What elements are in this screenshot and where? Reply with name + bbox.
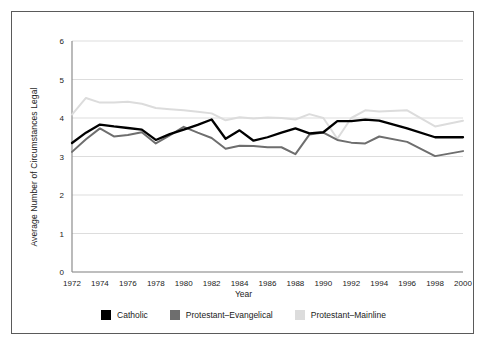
- y-tick-label-1: 1: [60, 230, 65, 239]
- legend-item-catholic[interactable]: Catholic: [101, 310, 148, 320]
- y-tick-label-4: 4: [60, 114, 65, 123]
- x-tick-label-1994: 1994: [370, 279, 388, 288]
- x-tick-label-1992: 1992: [342, 279, 360, 288]
- x-tick-label-1996: 1996: [398, 279, 416, 288]
- x-tick-label-1986: 1986: [259, 279, 277, 288]
- y-tick-label-5: 5: [60, 76, 65, 85]
- series-line-catholic: [72, 120, 463, 143]
- legend-swatch-catholic: [101, 310, 111, 320]
- y-tick-label-2: 2: [60, 191, 65, 200]
- legend-item-protestant-evangelical[interactable]: Protestant–Evangelical: [170, 310, 273, 320]
- x-axis-title: Year: [12, 289, 475, 299]
- legend-swatch-protestant-mainline: [295, 310, 305, 320]
- y-axis-title: Average Number of Circumstances Legal: [29, 52, 39, 282]
- y-tick-label-6: 6: [60, 37, 65, 46]
- x-tick-label-1978: 1978: [147, 279, 165, 288]
- x-tick-label-1980: 1980: [175, 279, 193, 288]
- chart-legend: Catholic Protestant–Evangelical Protesta…: [12, 310, 475, 320]
- x-tick-label-2000: 2000: [454, 279, 472, 288]
- chart-plot-area: Average Number of Circumstances Legal 01…: [12, 12, 475, 335]
- legend-item-protestant-mainline[interactable]: Protestant–Mainline: [295, 310, 386, 320]
- y-tick-label-0: 0: [60, 268, 65, 277]
- x-tick-label-1998: 1998: [426, 279, 444, 288]
- x-tick-label-1976: 1976: [119, 279, 137, 288]
- legend-swatch-protestant-evangelical: [170, 310, 180, 320]
- series-line-protestant-evangelical: [72, 127, 463, 156]
- x-tick-label-1984: 1984: [231, 279, 249, 288]
- legend-label-protestant-evangelical: Protestant–Evangelical: [186, 310, 273, 320]
- x-tick-label-1972: 1972: [63, 279, 81, 288]
- x-tick-label-1988: 1988: [287, 279, 305, 288]
- y-tick-label-3: 3: [60, 153, 65, 162]
- chart-figure-frame: Average Number of Circumstances Legal 01…: [11, 11, 474, 334]
- legend-label-protestant-mainline: Protestant–Mainline: [311, 310, 386, 320]
- legend-label-catholic: Catholic: [117, 310, 148, 320]
- x-tick-label-1974: 1974: [91, 279, 109, 288]
- x-tick-label-1982: 1982: [203, 279, 221, 288]
- line-chart-canvas: 0123456197219741976197819801982198419861…: [12, 12, 475, 335]
- x-tick-label-1990: 1990: [314, 279, 332, 288]
